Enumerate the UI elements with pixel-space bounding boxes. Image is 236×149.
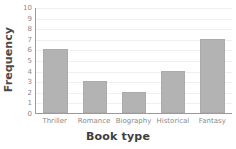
plot-area — [35, 8, 232, 114]
x-tick-label: Biography — [114, 117, 153, 126]
y-tick-label: 5 — [28, 58, 32, 65]
y-tick-label: 7 — [28, 36, 32, 43]
y-tick-label: 3 — [28, 79, 32, 86]
x-tick-label: Thriller — [35, 117, 74, 126]
bar-slot — [114, 8, 153, 113]
y-tick-label: 1 — [28, 100, 32, 107]
y-tick-label: 9 — [28, 15, 32, 22]
bars-layer — [36, 8, 232, 113]
y-tick-label: 8 — [28, 26, 32, 33]
y-axis-title: Frequency — [0, 0, 18, 118]
y-axis-title-label: Frequency — [3, 26, 16, 91]
bar-chart: Frequency 012345678910 ThrillerRomanceBi… — [0, 0, 236, 149]
bar — [161, 71, 185, 113]
x-tick-label: Fantasy — [193, 117, 232, 126]
y-tick-label: 4 — [28, 68, 32, 75]
x-tick-label: Historical — [153, 117, 192, 126]
bar-slot — [75, 8, 114, 113]
y-axis-tick-labels: 012345678910 — [18, 8, 34, 114]
bar — [43, 49, 67, 113]
x-axis-title: Book type — [0, 130, 236, 143]
y-tick-label: 0 — [28, 111, 32, 118]
bar-slot — [154, 8, 193, 113]
bar — [83, 81, 107, 113]
bar-slot — [193, 8, 232, 113]
x-axis-tick-labels: ThrillerRomanceBiographyHistoricalFantas… — [35, 117, 232, 129]
bar-slot — [36, 8, 75, 113]
y-tick-label: 6 — [28, 47, 32, 54]
bar — [122, 92, 146, 113]
bar — [200, 39, 224, 113]
x-tick-label: Romance — [74, 117, 113, 126]
y-tick-label: 10 — [23, 5, 32, 12]
y-tick-label: 2 — [28, 89, 32, 96]
